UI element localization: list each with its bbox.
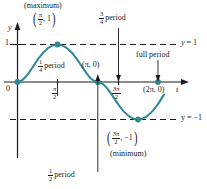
maximum-y-value: 1 — [47, 15, 51, 23]
pi-zero-point-label: (π, 0) — [82, 61, 99, 69]
y-symbol: y — [181, 38, 185, 47]
t-axis-label: t — [176, 86, 178, 94]
three-quarters-fraction: 3 4 — [99, 11, 104, 25]
paren-open: ( — [33, 12, 37, 26]
y-equals-1-line-label: y=1 — [181, 39, 197, 47]
half-period-text: period — [54, 170, 74, 179]
quarter-period-label: 1 4 period — [38, 59, 65, 73]
leader-half-period-arrowhead — [95, 74, 100, 81]
graph-canvas — [0, 0, 207, 189]
y-axis-label: y — [8, 24, 12, 32]
point-minimum — [135, 117, 141, 123]
one-half-fraction: 1 2 — [48, 168, 53, 182]
pi-over-two-tick-fraction: π 2 — [52, 86, 57, 100]
leader-three-quarter-period-arrowhead — [116, 75, 121, 82]
maximum-coordinate-label: ( π 2 , 1 ) — [32, 12, 57, 26]
two-pi-zero-point-label: (2π, 0) — [143, 86, 164, 94]
three-pi-over-two-tick-fraction: 3π 2 — [112, 86, 121, 100]
origin-label: 0 — [6, 85, 10, 93]
three-quarter-period-label: 3 4 period — [99, 11, 126, 25]
x-tick-label-three-pi-over-2: 3π 2 — [112, 86, 121, 100]
equals-symbol: = — [187, 38, 192, 47]
paren-close: ) — [134, 131, 138, 145]
point-maximum — [55, 42, 61, 48]
y-tick-label-1: 1 — [5, 39, 9, 47]
one-quarter-fraction: 1 4 — [38, 59, 43, 73]
half-period-label: 1 2 period — [48, 168, 75, 182]
minimum-coordinate-label: ( 3π 2 , −1 ) — [106, 131, 138, 145]
quarter-period-text: period — [44, 61, 64, 70]
x-tick-label-pi-over-2: π 2 — [52, 86, 57, 100]
sine-curve-figure: (maximum) ( π 2 , 1 ) 3 4 period y 1 y=1… — [0, 0, 207, 189]
minimum-caption: (minimum) — [110, 150, 146, 158]
value-1: 1 — [193, 38, 197, 47]
three-pi-over-two-fraction: 3π 2 — [112, 131, 121, 145]
three-quarter-period-text: period — [105, 13, 125, 22]
t-axis-arrowhead — [181, 79, 189, 85]
minimum-y-value: −1 — [124, 134, 133, 142]
paren-close: ) — [52, 12, 56, 26]
y-equals-minus-1-line-label: y = −1 — [181, 114, 202, 122]
paren-open: ( — [107, 131, 111, 145]
point-origin — [15, 79, 21, 85]
y-axis-arrowhead — [15, 22, 21, 30]
maximum-caption: (maximum) — [24, 2, 62, 10]
full-period-label: full period — [136, 51, 170, 59]
